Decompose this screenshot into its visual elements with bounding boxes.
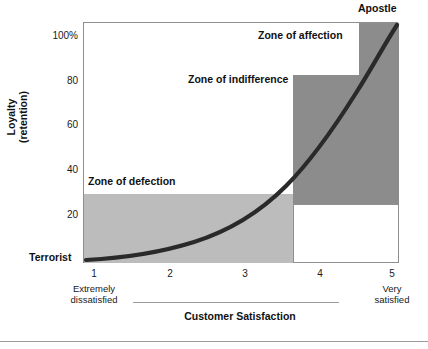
y-tick-100: 100% (0, 30, 78, 41)
annotation-apostle: Apostle (358, 2, 397, 14)
x-tick-2: 2 (150, 268, 190, 280)
x-tick-5: 5 (372, 268, 412, 280)
x-tick-3: 3 (225, 268, 265, 280)
plot-area (83, 22, 398, 262)
y-tick-40: 40 (0, 164, 78, 175)
x-tick-4: 4 (300, 268, 340, 280)
x-axis-rule (133, 302, 339, 303)
annotation-zone-of-defection: Zone of defection (88, 175, 176, 187)
y-axis-title-line1: Loyalty (5, 99, 17, 136)
x-axis-end-right-line2: satisfied (375, 294, 410, 305)
annotation-zone-of-indifference: Zone of indifference (188, 73, 288, 85)
annotation-terrorist: Terrorist (29, 251, 71, 263)
x-axis-title: Customer Satisfaction (150, 310, 330, 322)
x-axis-end-right-line1: Very (382, 283, 401, 294)
y-tick-20: 20 (0, 209, 78, 220)
y-axis-title: Loyalty (retention) (5, 77, 29, 157)
annotation-zone-of-affection: Zone of affection (258, 29, 343, 41)
figure-bottom-rule (0, 341, 428, 342)
x-axis-end-label-left: Extremely dissatisfied (58, 283, 130, 305)
x-axis-end-left-line2: dissatisfied (71, 294, 118, 305)
x-axis-end-left-line1: Extremely (73, 283, 115, 294)
chart-figure: 100% 80 60 40 20 Loyalty (retention) Zon… (0, 0, 428, 349)
satisfaction-loyalty-curve (84, 23, 399, 263)
x-tick-1: 1 (74, 268, 114, 280)
y-axis-title-line2: (retention) (17, 91, 29, 143)
x-axis-end-label-right: Very satisfied (356, 283, 428, 305)
